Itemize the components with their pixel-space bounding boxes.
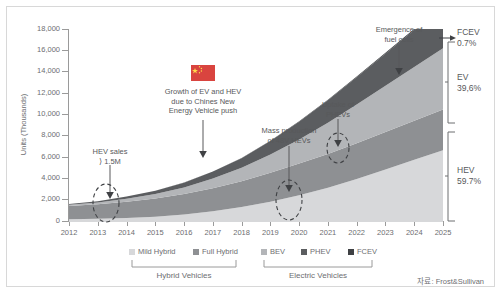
y-tick-mark [62,178,68,179]
x-tick-mark [299,222,300,226]
share-label-ev-value: 39,6% [457,83,481,94]
legend-group-hybrid: Hybrid Vehicles [131,271,237,280]
share-label-hev-value: 59.7% [457,176,481,187]
x-tick-mark [270,222,271,226]
y-tick-group: 16,000 [7,46,60,54]
y-tick-group: 8,000 [7,131,60,139]
annotation-hev-sales: HEV sales ⟩ 1.5M [79,147,141,166]
x-tick-mark [127,222,128,226]
y-tick-group: 0 [7,217,60,225]
x-tick-mark [357,222,358,226]
annotation-fuel-cells-arrow [392,45,406,77]
legend-label-full-hybrid: Full Hybrid [202,247,238,256]
annotation-china-growth-arrow [196,120,210,160]
y-tick-mark [62,93,68,94]
y-tick-mark [62,135,68,136]
legend-swatch-full-hybrid [193,249,199,255]
hybrid-group-bracket [131,259,237,269]
legend-label-mild-hybrid: Mild Hybrid [138,247,176,256]
hev-share-bracket [445,131,457,223]
legend-swatch-fcev [348,249,354,255]
share-label-fcev: FCEV 0.7% [457,27,480,48]
share-label-fcev-name: FCEV [457,27,480,38]
electric-group-bracket [263,259,373,269]
legend-label-phev: PHEV [310,247,330,256]
x-tick-mark [242,222,243,226]
y-tick-label: 16,000 [8,46,60,54]
y-tick-mark [62,199,68,200]
ev-share-bracket [445,41,457,125]
x-tick-mark [328,222,329,226]
x-tick-mark [443,222,444,226]
annotation-china-line2: due to Chines New [147,97,259,107]
legend-item-phev[interactable]: PHEV [301,247,330,256]
annotation-mass-line1: Mass production [245,126,333,136]
china-flag-stars-icon [191,65,215,81]
y-tick-group: 4,000 [7,174,60,182]
annotation-mass-production: Mass production of 48V HEVs [245,126,333,145]
annotation-china-line3: Energy Vehicle push [147,106,259,116]
y-tick-mark [62,29,68,30]
legend-item-fcev[interactable]: FCEV [348,247,377,256]
annotation-fuelcells-line2: fuel cells [359,35,439,45]
y-tick-label: 18,000 [8,25,60,33]
y-tick-group: 12,000 [7,89,60,97]
legend-item-full-hybrid[interactable]: Full Hybrid [193,247,238,256]
annotation-china-line1: Growth of EV and HEV [147,87,259,97]
y-tick-label: 4,000 [8,174,60,182]
legend-label-fcev: FCEV [357,247,377,256]
legend-label-bev: BEV [270,247,285,256]
y-tick-group: 14,000 [7,67,60,75]
annotation-uptake-phev: Uptake of PHEVs [305,100,371,119]
y-tick-label: 6,000 [8,153,60,161]
x-tick-label: 2025 [426,228,460,237]
legend-swatch-phev [301,249,307,255]
annotation-china-growth: Growth of EV and HEV due to Chines New E… [147,87,259,116]
x-tick-mark [69,222,70,226]
share-label-hev: HEV 59.7% [457,165,481,186]
x-tick-mark [385,222,386,226]
annotation-uptake-phev-ellipse [323,131,353,165]
china-flag-icon [191,65,215,81]
y-tick-label: 8,000 [8,131,60,139]
annotation-hev-sales-ellipse [89,182,123,224]
legend-group-electric: Electric Vehicles [263,271,373,280]
annotation-uptake-line2: PHEVs [305,110,371,120]
legend-swatch-mild-hybrid [129,249,135,255]
y-tick-group: 2,000 [7,195,60,203]
share-label-ev: EV 39,6% [457,72,481,93]
y-tick-group: 6,000 [7,153,60,161]
x-tick-mark [155,222,156,226]
y-tick-group: 10,000 [7,110,60,118]
annotation-fuel-cells: Emergence of fuel cells [359,25,439,44]
annotation-hev-sales-line1: HEV sales [79,147,141,157]
legend-swatch-bev [261,249,267,255]
x-tick-mark [414,222,415,226]
y-tick-mark [62,114,68,115]
share-label-hev-name: HEV [457,165,481,176]
legend-item-bev[interactable]: BEV [261,247,285,256]
chart-card: Units (Thousands) 18,000 16,000 14,000 1… [6,6,495,287]
y-tick-group: 18,000 [7,25,60,33]
y-tick-mark [62,221,68,222]
x-tick-mark [213,222,214,226]
legend-item-mild-hybrid[interactable]: Mild Hybrid [129,247,176,256]
x-tick-mark [184,222,185,226]
annotation-uptake-line1: Uptake of [305,100,371,110]
y-tick-mark [62,50,68,51]
source-attribution: 자료: Frost&Sullivan [417,275,484,286]
y-tick-label: 10,000 [8,110,60,118]
annotation-mass-line2: of 48V HEVs [245,136,333,146]
y-tick-label: 12,000 [8,89,60,97]
share-label-fcev-value: 0.7% [457,38,480,49]
y-tick-mark [62,157,68,158]
y-tick-mark [62,71,68,72]
annotation-mass-production-ellipse [272,178,306,222]
share-label-ev-name: EV [457,72,481,83]
y-tick-label: 2,000 [8,195,60,203]
y-tick-label: 14,000 [8,67,60,75]
annotation-fuelcells-line1: Emergence of [359,25,439,35]
y-axis-title-text: Units (Thousands) [19,65,28,185]
y-tick-label: 0 [8,217,60,225]
